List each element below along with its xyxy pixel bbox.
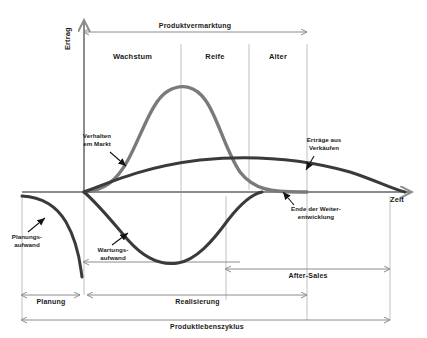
phase-label-wachstum: Wachstum xyxy=(84,53,181,61)
callout-line-2: aufwand xyxy=(4,241,50,249)
callout-line-1: Planungs- xyxy=(4,233,50,241)
product-lifecycle-diagram: Ertrag Zeit Produktvermarktung Wachstum … xyxy=(0,0,427,338)
callout-line-2: em Markt xyxy=(74,140,120,148)
x-axis-label: Zeit xyxy=(390,196,404,204)
bracket-label-produktvermarktung: Produktvermarktung xyxy=(140,22,250,30)
leader-ende-der-weiterentwicklung xyxy=(283,192,294,205)
callout-ende-der-weiterentwicklung: Ende der Weiter- entwicklung xyxy=(283,205,349,221)
callout-line-2: entwicklung xyxy=(283,213,349,221)
callout-verhalten-am-markt: Verhalten em Markt xyxy=(74,132,120,148)
callout-planungsaufwand: Planungs- aufwand xyxy=(4,233,50,249)
callout-wartungsaufwand: Wartungs- aufwand xyxy=(90,246,136,262)
bracket-label-planung: Planung xyxy=(22,298,80,306)
callout-line-1: Verhalten xyxy=(74,132,120,140)
callout-ertraege-aus-verkaeufen: Erträge aus Verkäufen xyxy=(297,136,351,152)
phase-label-reife: Reife xyxy=(181,53,249,61)
leader-planungsaufwand xyxy=(28,218,45,232)
leader-verhalten-am-markt xyxy=(110,152,126,166)
callout-line-2: Verkäufen xyxy=(297,144,351,152)
phase-label-alter: Alter xyxy=(249,53,307,61)
callout-line-1: Ende der Weiter- xyxy=(283,205,349,213)
bracket-label-realisierung: Realisierung xyxy=(135,298,260,306)
y-axis-label: Ertrag xyxy=(64,27,72,50)
callout-line-1: Erträge aus xyxy=(297,136,351,144)
bracket-label-produktlebenszyklus: Produktlebenszyklus xyxy=(145,323,269,331)
diagram-canvas xyxy=(0,0,427,338)
callout-line-1: Wartungs- xyxy=(90,246,136,254)
bracket-label-after-sales: After-Sales xyxy=(263,272,353,280)
callout-line-2: aufwand xyxy=(90,254,136,262)
